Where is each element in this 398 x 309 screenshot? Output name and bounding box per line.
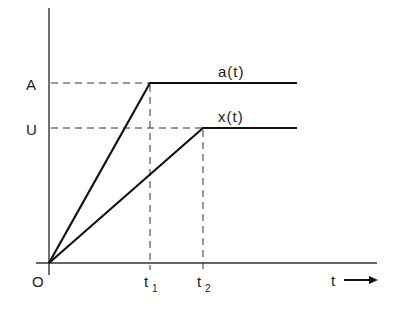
x-tick-t2: t 2	[197, 273, 211, 294]
x-axis-label: t	[331, 272, 336, 289]
y-tick-A: A	[26, 76, 36, 93]
curve-label-a-t: a(t)	[218, 63, 245, 80]
svg-text:t: t	[144, 273, 149, 290]
curve-label-x-t: x(t)	[218, 108, 244, 125]
origin-label: O	[32, 273, 44, 290]
arrow-right-icon	[344, 276, 378, 284]
svg-text:2: 2	[205, 283, 211, 294]
diagram-canvas: A U a(t) x(t) O t 1 t 2 t	[0, 0, 398, 309]
x-tick-t1: t 1	[144, 273, 158, 294]
y-tick-U: U	[26, 121, 37, 138]
svg-text:1: 1	[152, 283, 158, 294]
svg-text:t: t	[197, 273, 202, 290]
curve-a-t	[49, 83, 297, 263]
